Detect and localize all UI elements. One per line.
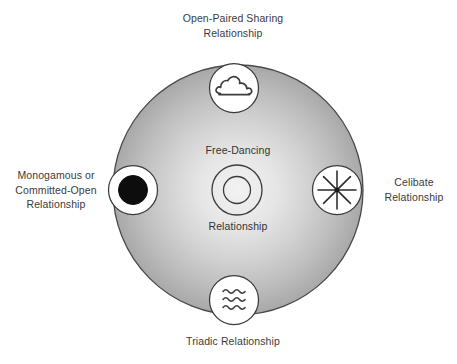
asterisk-hub [335,188,340,193]
label-triadic: Triadic Relationship [152,334,314,349]
relationship-diagram: Open-Paired Sharing Relationship Monogam… [0,0,457,364]
label-center-relationship: Relationship [178,219,298,234]
filled-disc-icon [119,176,148,205]
label-monogamous-committed-open: Monogamous or Committed-Open Relationshi… [4,168,108,212]
label-open-paired-sharing: Open-Paired Sharing Relationship [148,11,318,40]
label-center-free-dancing: Free-Dancing [178,143,298,158]
label-celibate: Celibate Relationship [372,175,456,204]
node-triadic[interactable] [210,276,259,325]
node-open-paired-sharing[interactable] [210,64,259,113]
node-celibate[interactable] [313,166,362,215]
node-monogamous-committed-open[interactable] [109,166,158,215]
